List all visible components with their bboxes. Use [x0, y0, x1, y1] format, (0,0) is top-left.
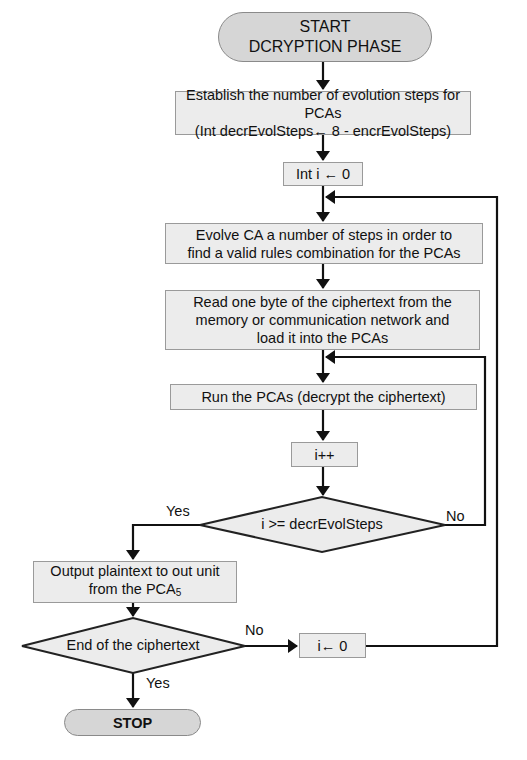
reset-counter-label: i← 0 [318, 637, 348, 655]
evolve-line2: find a valid rules combination for the P… [187, 244, 460, 262]
increment-label: i++ [314, 446, 334, 464]
evolve-ca-box: Evolve CA a number of steps in order to … [165, 223, 483, 264]
read-line2: memory or communication network and [196, 311, 450, 329]
end-check-yes-label: Yes [146, 675, 170, 691]
evolve-line1: Evolve CA a number of steps in order to [196, 226, 452, 244]
decision-loop-check: i >= decrEvolSteps [232, 516, 412, 532]
run-pcas-box: Run the PCAs (decrypt the ciphertext) [170, 384, 477, 410]
decision-loop-check-text: i >= decrEvolSteps [261, 516, 383, 532]
start-phase-label: DCRYPTION PHASE [249, 37, 402, 57]
establish-steps-box: Establish the number of evolution steps … [175, 91, 471, 135]
decision-end-check: End of the ciphertext [53, 637, 213, 653]
output-line1: Output plaintext to out unit [50, 562, 219, 580]
decision-end-check-text: End of the ciphertext [67, 637, 200, 653]
establish-line2: (Int decrEvolSteps← 8 - encrEvolSteps) [195, 122, 451, 140]
reset-counter-box: i← 0 [299, 633, 366, 658]
end-check-no-label: No [245, 622, 264, 638]
start-label: START [300, 17, 351, 37]
run-pcas-label: Run the PCAs (decrypt the ciphertext) [201, 388, 445, 406]
increment-box: i++ [291, 442, 358, 467]
read-byte-box: Read one byte of the ciphertext from the… [165, 290, 480, 350]
read-line1: Read one byte of the ciphertext from the [193, 293, 452, 311]
loop-check-no-label: No [446, 508, 465, 524]
init-counter-label: Int i ← 0 [296, 165, 350, 183]
establish-line1: Establish the number of evolution steps … [176, 86, 470, 122]
stop-terminal: STOP [64, 709, 201, 736]
output-plaintext-box: Output plaintext to out unit from the PC… [33, 561, 237, 603]
output-line2: from the PCA5 [89, 580, 182, 602]
init-counter-box: Int i ← 0 [283, 162, 363, 186]
start-terminal: START DCRYPTION PHASE [218, 12, 432, 62]
stop-label: STOP [113, 714, 152, 732]
loop-check-yes-label: Yes [166, 503, 190, 519]
read-line3: load it into the PCAs [257, 329, 388, 347]
